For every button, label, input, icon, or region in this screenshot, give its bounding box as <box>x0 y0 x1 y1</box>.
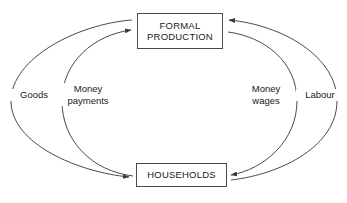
edge-label-labour-line-1: Labour <box>297 89 343 101</box>
edge-label-labour: Labour <box>296 89 344 101</box>
edge-label-money-payments-line-2: payments <box>59 95 117 107</box>
circular-flow-diagram: FORMAL PRODUCTION HOUSEHOLDS Goods Money… <box>0 0 347 203</box>
edge-label-money-payments-line-1: Money <box>59 83 117 95</box>
node-households: HOUSEHOLDS <box>136 163 227 187</box>
edge-label-money-payments: Money payments <box>58 83 118 106</box>
node-formal-production-line-1: FORMAL <box>160 20 201 32</box>
edge-label-money-wages-line-2: wages <box>239 95 293 107</box>
edge-label-money-wages: Money wages <box>238 83 294 106</box>
edge-label-goods-line-1: Goods <box>11 89 57 101</box>
node-households-line-1: HOUSEHOLDS <box>147 169 216 181</box>
node-formal-production: FORMAL PRODUCTION <box>137 13 223 49</box>
node-formal-production-line-2: PRODUCTION <box>147 31 213 43</box>
edge-label-money-wages-line-1: Money <box>239 83 293 95</box>
edge-label-goods: Goods <box>10 89 58 101</box>
